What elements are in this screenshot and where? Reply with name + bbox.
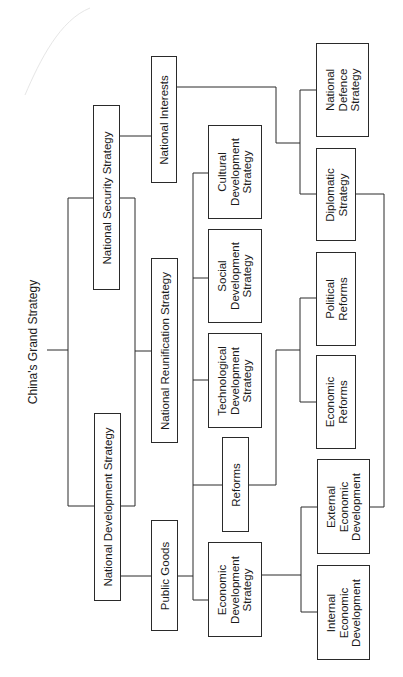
node-label: Diplomatic Strategy (324, 168, 349, 222)
node-label: External Economic Development (325, 473, 363, 541)
node-label: National Interests (158, 75, 171, 165)
node-national-reunification-strategy: National Reunification Strategy (151, 258, 178, 443)
node-label: Technological Development Strategy (216, 346, 254, 416)
node-label: Reforms (229, 463, 242, 506)
node-diplomatic-strategy: Diplomatic Strategy (316, 148, 356, 241)
node-public-goods: Public Goods (151, 520, 178, 631)
node-label: Economic Development Strategy (216, 556, 254, 624)
node-social-development-strategy: Social Development Strategy (208, 229, 262, 323)
node-national-interests: National Interests (151, 56, 177, 183)
node-label: National Defence Strategy (324, 69, 362, 112)
node-label: National Development Strategy (101, 427, 114, 586)
node-label: Internal Economic Development (325, 579, 363, 647)
node-reforms: Reforms (222, 437, 249, 532)
node-label: National Security Strategy (100, 131, 113, 264)
grand-strategy-diagram: China's Grand Strategy National Security… (0, 0, 403, 677)
node-label: Economic Reforms (324, 377, 349, 428)
node-economic-development-strategy: Economic Development Strategy (208, 542, 262, 637)
node-technological-development-strategy: Technological Development Strategy (208, 333, 262, 428)
node-label: Cultural Development Strategy (216, 138, 254, 206)
node-cultural-development-strategy: Cultural Development Strategy (208, 125, 262, 219)
node-label: Public Goods (158, 541, 171, 609)
node-external-economic-development: External Economic Development (317, 459, 370, 554)
node-internal-economic-development: Internal Economic Development (317, 565, 370, 660)
node-label: Political Reforms (324, 277, 349, 320)
node-label: National Reunification Strategy (158, 272, 171, 430)
node-label: Social Development Strategy (216, 242, 254, 310)
node-national-defence-strategy: National Defence Strategy (316, 43, 369, 137)
node-national-security-strategy: National Security Strategy (93, 105, 120, 290)
node-national-development-strategy: National Development Strategy (94, 413, 121, 601)
node-political-reforms: Political Reforms (316, 252, 356, 346)
node-economic-reforms: Economic Reforms (316, 355, 356, 449)
diagram-title: China's Grand Strategy (26, 280, 40, 404)
